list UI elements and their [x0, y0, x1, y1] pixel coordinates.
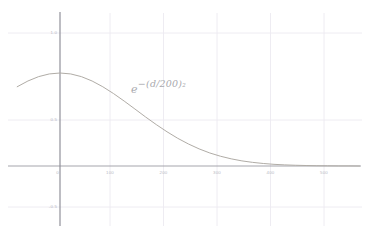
y-tick-label--0.5: -0.5	[42, 205, 57, 209]
x-tick-label-0: 0	[56, 171, 59, 175]
x-tick-label-200: 200	[160, 171, 168, 175]
x-tick-label-400: 400	[267, 171, 275, 175]
y-tick-label-1.0: 1.0	[44, 31, 57, 35]
y-tick-label-0.5: 0.5	[44, 118, 57, 122]
equation-exponent: −(d/200)	[138, 78, 182, 89]
x-tick-label-100: 100	[106, 171, 114, 175]
x-tick-label-500: 500	[320, 171, 328, 175]
x-tick-label-300: 300	[213, 171, 221, 175]
gaussian-falloff-chart: 1.0 0.5 -0.5 0 100 200 300 400 500 e−(d/…	[0, 0, 373, 238]
vertical-gridlines	[110, 13, 324, 226]
curve-equation-annotation: e−(d/200)2	[131, 79, 186, 96]
gaussian-curve	[17, 73, 359, 166]
horizontal-gridlines	[8, 33, 362, 207]
equation-base: e	[131, 83, 138, 96]
equation-exponent-power: 2	[182, 82, 186, 88]
